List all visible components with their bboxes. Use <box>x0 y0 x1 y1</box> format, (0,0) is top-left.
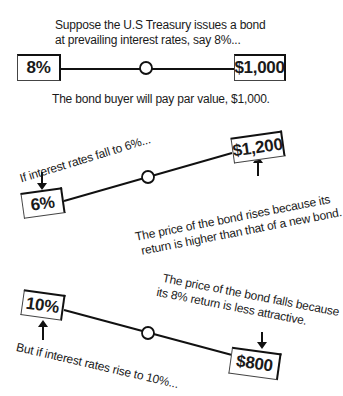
price-label: $1,000 <box>234 58 284 78</box>
rate-box-8: 8% <box>17 54 61 81</box>
caption-par-line2: at prevailing interest rates, say 8%... <box>55 33 241 47</box>
fulcrum-icon <box>142 171 154 183</box>
rate-label: 10% <box>25 293 61 317</box>
fulcrum-icon <box>140 62 152 74</box>
caption-par-bottom: The bond buyer will pay par value, $1,00… <box>52 92 270 106</box>
fulcrum-icon <box>142 327 154 339</box>
rate-label: 6% <box>29 192 56 215</box>
caption-par-line1: Suppose the U.S Treasury issues a bond <box>55 18 266 32</box>
price-box-1000: $1,000 <box>234 54 286 81</box>
price-label: $1,200 <box>231 134 283 161</box>
rate-label: 8% <box>27 58 51 78</box>
price-label: $800 <box>235 351 274 376</box>
